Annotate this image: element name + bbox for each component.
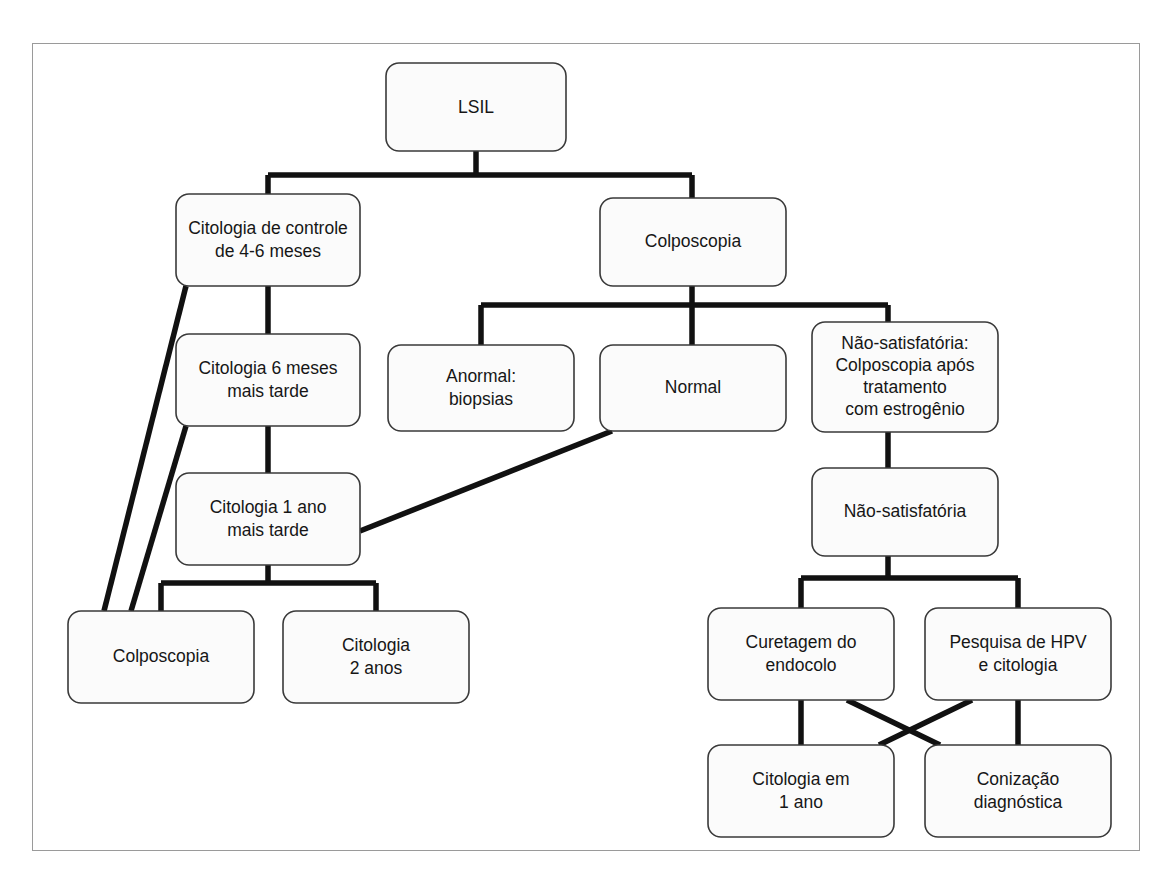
node-curetagem-label-line1: Curetagem do	[746, 632, 857, 652]
node-pesquisa-hpv-citologia[interactable]: Pesquisa de HPV e citologia	[925, 608, 1111, 700]
node-nao-satisf-trat-label-line1: Não-satisfatória:	[841, 333, 968, 353]
node-citologia-controle-4-6-meses[interactable]: Citologia de controle de 4-6 meses	[176, 194, 360, 286]
node-normal-label: Normal	[665, 377, 721, 397]
node-pesquisa-hpv-label-line2: e citologia	[979, 655, 1058, 675]
node-citologia-2-anos-label-line1: Citologia	[342, 635, 410, 655]
node-citologia-em-1-ano-label-line1: Citologia em	[752, 769, 849, 789]
node-anormal-label-line1: Anormal:	[446, 366, 516, 386]
flowchart-canvas: LSIL Citologia de controle de 4-6 meses …	[0, 0, 1174, 884]
edge-lsil-split	[268, 151, 692, 198]
node-conizacao-label-line1: Conização	[977, 769, 1060, 789]
node-colposcopia-top[interactable]: Colposcopia	[600, 198, 786, 286]
node-citologia-6-meses-label-line2: mais tarde	[227, 381, 309, 401]
node-anormal-biopsias[interactable]: Anormal: biopsias	[388, 345, 574, 431]
node-nao-satisf-trat-label-line4: com estrogênio	[845, 399, 965, 419]
node-colposcopia-top-label: Colposcopia	[645, 231, 742, 251]
node-nao-satisfatoria[interactable]: Não-satisfatória	[812, 468, 998, 556]
node-anormal-label-line2: biopsias	[449, 389, 513, 409]
edge-naosatisf-split	[801, 556, 1018, 608]
figure-page: LSIL Citologia de controle de 4-6 meses …	[0, 0, 1174, 884]
node-citologia-em-1-ano[interactable]: Citologia em 1 ano	[708, 745, 894, 837]
node-curetagem-label-line2: endocolo	[765, 655, 836, 675]
node-citologia-1-ano[interactable]: Citologia 1 ano mais tarde	[176, 473, 360, 565]
node-citologia-1-ano-label-line2: mais tarde	[227, 520, 309, 540]
node-citologia-2-anos[interactable]: Citologia 2 anos	[283, 611, 469, 703]
node-nao-satisf-trat-label-line2: Colposcopia após	[835, 355, 974, 375]
node-citologia-6-meses[interactable]: Citologia 6 meses mais tarde	[176, 334, 360, 426]
node-nao-satisf-trat-label-line3: tratamento	[863, 377, 947, 397]
edge-citologia1ano-split	[161, 565, 376, 611]
node-conizacao-diagnostica[interactable]: Conização diagnóstica	[925, 745, 1111, 837]
node-citologia-1-ano-label-line1: Citologia 1 ano	[210, 497, 327, 517]
node-nao-satisfatoria-tratamento[interactable]: Não-satisfatória: Colposcopia após trata…	[812, 322, 998, 432]
node-colposcopia-bottom-label: Colposcopia	[113, 646, 210, 666]
node-conizacao-label-line2: diagnóstica	[974, 792, 1063, 812]
node-nao-satisfatoria-label: Não-satisfatória	[844, 501, 967, 521]
node-layer: LSIL Citologia de controle de 4-6 meses …	[68, 63, 1111, 837]
node-lsil-label: LSIL	[458, 97, 494, 117]
node-colposcopia-bottom[interactable]: Colposcopia	[68, 611, 254, 703]
node-citologia-controle-label-line2: de 4-6 meses	[215, 241, 321, 261]
node-citologia-em-1-ano-label-line2: 1 ano	[779, 792, 823, 812]
node-citologia-6-meses-label-line1: Citologia 6 meses	[198, 358, 337, 378]
node-pesquisa-hpv-label-line1: Pesquisa de HPV	[949, 632, 1086, 652]
edge-normal-citologia1ano	[360, 431, 612, 531]
node-citologia-controle-label-line1: Citologia de controle	[188, 218, 348, 238]
node-normal[interactable]: Normal	[600, 345, 786, 431]
node-lsil[interactable]: LSIL	[386, 63, 566, 151]
node-curetagem-endocolo[interactable]: Curetagem do endocolo	[708, 608, 894, 700]
node-citologia-2-anos-label-line2: 2 anos	[350, 658, 403, 678]
